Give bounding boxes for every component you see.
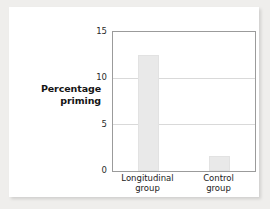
y-tick-label-5: 5 bbox=[81, 119, 107, 129]
x-axis-label-control-group: Control group bbox=[174, 173, 264, 193]
y-axis-title: Percentage priming bbox=[21, 83, 101, 106]
x-axis-label-1-line-1: Control bbox=[174, 173, 264, 183]
gridline-5 bbox=[113, 124, 255, 125]
y-axis-title-line-1: Percentage bbox=[21, 83, 101, 95]
bar-longitudinal-group bbox=[138, 55, 159, 171]
gridline-10 bbox=[113, 78, 255, 79]
figure-root: Percentage priming 15 10 5 0 Longitudina… bbox=[0, 0, 270, 209]
y-axis-title-line-2: priming bbox=[21, 95, 101, 107]
plot-area bbox=[112, 31, 256, 172]
y-tick-label-10: 10 bbox=[81, 72, 107, 82]
bar-control-group bbox=[209, 156, 230, 171]
x-axis-label-1-line-2: group bbox=[174, 183, 264, 193]
y-tick-label-15: 15 bbox=[81, 26, 107, 36]
figure-card: Percentage priming 15 10 5 0 Longitudina… bbox=[9, 7, 259, 197]
